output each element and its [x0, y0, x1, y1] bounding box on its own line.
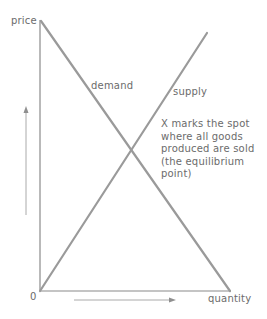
- supply-demand-diagram: price 0 quantity demand supply X marks t…: [0, 0, 267, 319]
- origin-label: 0: [30, 291, 37, 303]
- y-axis-label: price: [11, 15, 37, 27]
- x-axis-label: quantity: [208, 293, 251, 305]
- annotation-line: X marks the spot: [161, 118, 254, 131]
- price-increase-arrow-icon: [24, 106, 29, 215]
- annotation-line: where all goods: [161, 131, 254, 144]
- annotation-line: point): [161, 168, 254, 181]
- demand-label: demand: [91, 80, 133, 92]
- annotation-line: (the equilibrium: [161, 156, 254, 169]
- supply-label: supply: [173, 86, 207, 98]
- quantity-increase-arrow-icon: [74, 298, 176, 303]
- annotation-line: produced are sold: [161, 143, 254, 156]
- equilibrium-annotation: X marks the spot where all goods produce…: [161, 118, 254, 181]
